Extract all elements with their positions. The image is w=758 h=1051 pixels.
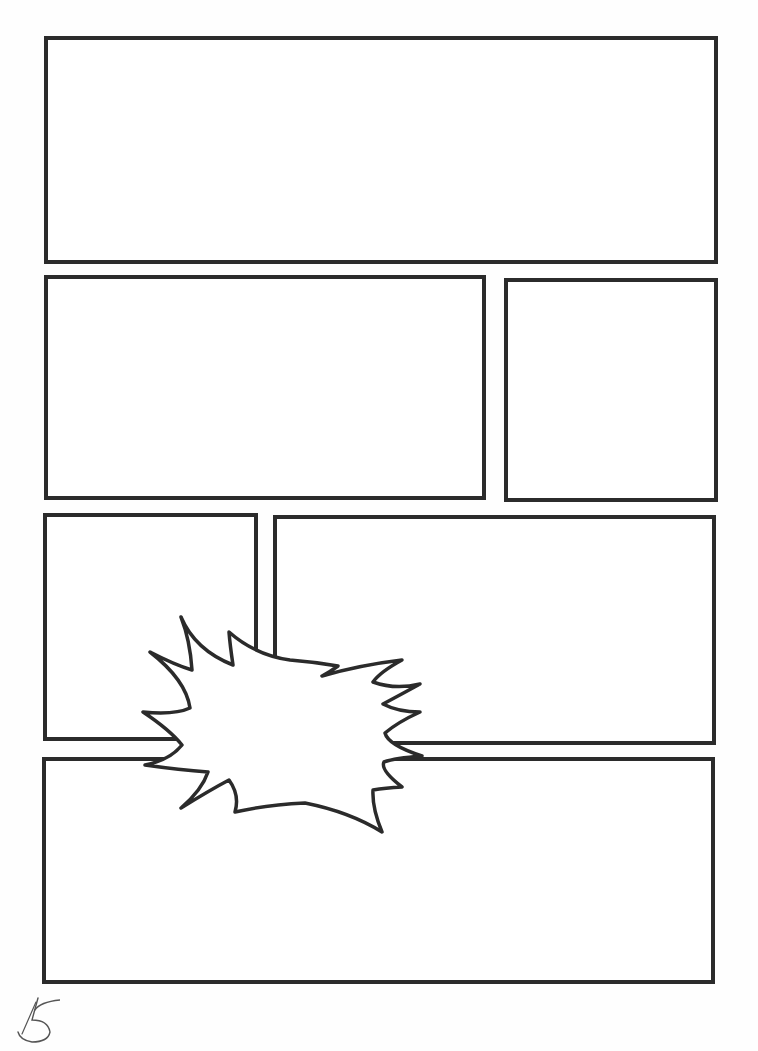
comic-page: Panel 1 Panel 2 Panel 3 Panel 4 Panel 5 … — [0, 0, 758, 1051]
burst-balloon — [0, 0, 758, 1051]
burst-shape — [143, 617, 422, 832]
page-number-handwritten — [10, 990, 60, 1045]
